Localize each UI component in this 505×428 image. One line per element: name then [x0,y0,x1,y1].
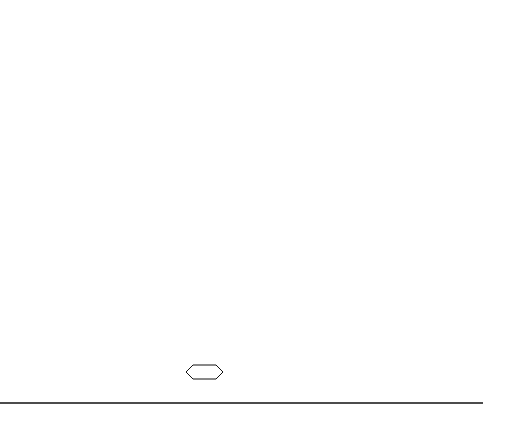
peak-label-box [186,365,223,379]
contour-diagram [0,0,505,428]
peak-label-group [186,365,223,379]
